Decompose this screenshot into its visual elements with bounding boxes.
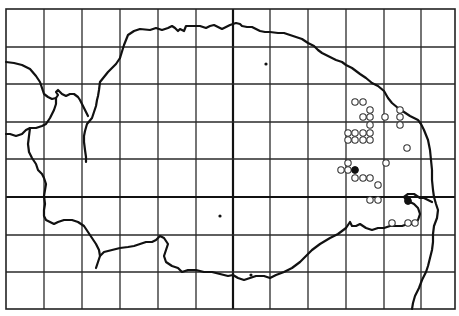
open-circle-marker — [375, 197, 381, 203]
open-circle-marker — [383, 160, 389, 166]
west-river-upper-line — [6, 62, 88, 116]
open-circle-marker — [345, 160, 351, 166]
open-circle-marker — [360, 114, 366, 120]
open-circle-marker — [367, 122, 373, 128]
open-circle-marker — [352, 175, 358, 181]
open-circle-marker — [345, 167, 351, 173]
open-circle-marker — [367, 107, 373, 113]
coastline-and-rivers — [6, 23, 438, 309]
open-circle-marker — [345, 137, 351, 143]
open-circle-marker — [345, 130, 351, 136]
small-dot-marker — [264, 62, 267, 65]
open-circle-marker — [382, 114, 388, 120]
open-circle-marker — [412, 220, 418, 226]
north-east-coast-line — [120, 23, 438, 309]
open-circle-marker — [375, 182, 381, 188]
open-circle-marker — [397, 114, 403, 120]
open-circle-marker — [360, 137, 366, 143]
open-circle-marker — [397, 122, 403, 128]
open-circle-marker — [360, 99, 366, 105]
south-boundary-river-line — [100, 194, 432, 280]
west-river-loop-line — [6, 98, 56, 136]
open-circle-marker — [389, 220, 395, 226]
open-circle-marker — [367, 114, 373, 120]
open-circle-marker — [367, 175, 373, 181]
small-dot-marker — [218, 214, 221, 217]
open-circle-marker — [367, 197, 373, 203]
open-circle-marker — [360, 130, 366, 136]
open-circle-marker — [397, 107, 403, 113]
open-circle-marker — [360, 175, 366, 181]
wash-western-shore-line — [84, 58, 120, 162]
map-canvas — [0, 0, 459, 316]
grid-lines — [6, 9, 455, 309]
open-circle-marker — [367, 130, 373, 136]
distribution-map — [0, 0, 459, 316]
filled-circle-marker — [405, 198, 412, 205]
open-circle-marker — [352, 130, 358, 136]
open-circle-marker — [405, 220, 411, 226]
filled-circle-marker — [352, 167, 359, 174]
open-circle-marker — [404, 145, 410, 151]
open-circle-marker — [352, 99, 358, 105]
open-circle-marker — [352, 137, 358, 143]
open-circle-marker — [338, 167, 344, 173]
open-circle-marker — [367, 137, 373, 143]
small-dot-marker — [249, 273, 252, 276]
